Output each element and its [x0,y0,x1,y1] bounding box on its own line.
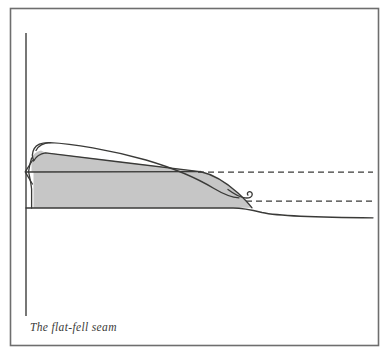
figure-caption: The flat-fell seam [30,321,117,334]
figure-container: The flat-fell seam [0,0,389,354]
flat-fell-seam-diagram: The flat-fell seam [0,0,389,354]
